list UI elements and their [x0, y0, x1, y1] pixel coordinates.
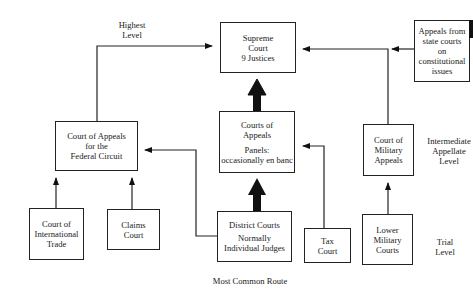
node-text: Court of Appeals	[67, 131, 126, 141]
node-text: Military	[373, 235, 401, 245]
node-text: issues	[432, 66, 453, 76]
level-label-highest: Highest Level	[110, 20, 154, 40]
node-tax-court: Tax Court	[304, 228, 351, 263]
node-text: Court	[248, 43, 268, 53]
node-military-appeals: Court of Military Appeals	[363, 124, 414, 176]
node-text: state courts	[423, 36, 462, 46]
node-text: 9 Justices	[241, 53, 274, 63]
node-courts-of-appeals: Courts of Appeals Panels: occasionally e…	[219, 111, 295, 173]
node-text: Military	[374, 145, 402, 155]
node-text: Court of	[374, 135, 403, 145]
page-edge-mark	[469, 20, 473, 38]
bold-shaft-lower	[253, 194, 261, 212]
node-note: Normally	[238, 233, 271, 243]
bold-shaft-upper	[253, 94, 261, 111]
level-text: Highest	[110, 20, 154, 30]
level-label-trial: Trial Level	[430, 237, 460, 257]
node-international-trade: Court of International Trade	[29, 208, 84, 260]
level-text: Level	[430, 247, 460, 257]
node-text: District Courts	[229, 220, 280, 230]
level-text: Appellate	[424, 146, 473, 156]
node-text: Claims	[121, 220, 145, 230]
node-note: Panels:	[245, 145, 270, 155]
node-district-courts: District Courts Normally Individual Judg…	[217, 211, 292, 262]
node-state-appeals: Appeals from state courts on constitutio…	[414, 20, 470, 82]
node-text: Court of	[42, 219, 71, 229]
node-text: Trade	[47, 239, 67, 249]
node-note: Individual Judges	[224, 243, 285, 253]
edge-federal-circuit-to-supreme	[97, 46, 212, 121]
footer-most-common-route: Most Common Route	[210, 276, 290, 286]
level-label-intermediate: Intermediate Appellate Level	[424, 136, 473, 166]
node-text: Court	[124, 230, 144, 240]
node-federal-circuit: Court of Appeals for the Federal Circuit	[55, 121, 138, 171]
node-text: Supreme	[243, 33, 274, 43]
node-note: occasionally en banc	[221, 155, 293, 165]
node-text: Lower	[376, 225, 398, 235]
node-text: Appeals	[374, 155, 402, 165]
node-text: International	[35, 229, 79, 239]
level-text: Trial	[430, 237, 460, 247]
node-text: on	[438, 46, 447, 56]
node-claims-court: Claims Court	[107, 209, 160, 250]
node-text: Courts	[376, 245, 399, 255]
level-text: Level	[424, 156, 473, 166]
edge-district-to-courts-of-appeals-bold	[248, 178, 266, 195]
level-text: Level	[110, 30, 154, 40]
node-lower-military: Lower Military Courts	[362, 214, 413, 265]
node-supreme-court: Supreme Court 9 Justices	[220, 22, 296, 73]
node-text: for the	[85, 141, 108, 151]
node-text: Federal Circuit	[71, 151, 123, 161]
node-text: Appeals	[243, 130, 271, 140]
node-text: Appeals from	[418, 26, 465, 36]
node-text: constitutional	[419, 56, 466, 66]
edge-tax-to-courts-of-appeals	[303, 146, 324, 228]
node-text: Courts of	[241, 120, 273, 130]
node-text: Tax	[321, 236, 334, 246]
edge-military-appeals-to-supreme	[303, 49, 388, 124]
node-text: Court	[318, 246, 338, 256]
level-text: Intermediate	[424, 136, 473, 146]
